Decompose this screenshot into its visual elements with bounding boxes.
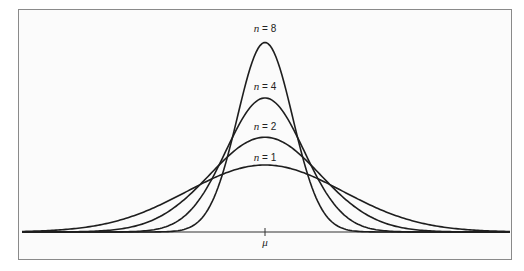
label-n1: n = 1 — [254, 151, 276, 163]
label-n4: n = 4 — [254, 80, 276, 92]
mu-label: μ — [262, 236, 268, 248]
curve-n1 — [22, 165, 510, 232]
density-plot — [0, 0, 524, 271]
label-n8: n = 8 — [254, 22, 276, 34]
label-n2: n = 2 — [254, 120, 276, 132]
